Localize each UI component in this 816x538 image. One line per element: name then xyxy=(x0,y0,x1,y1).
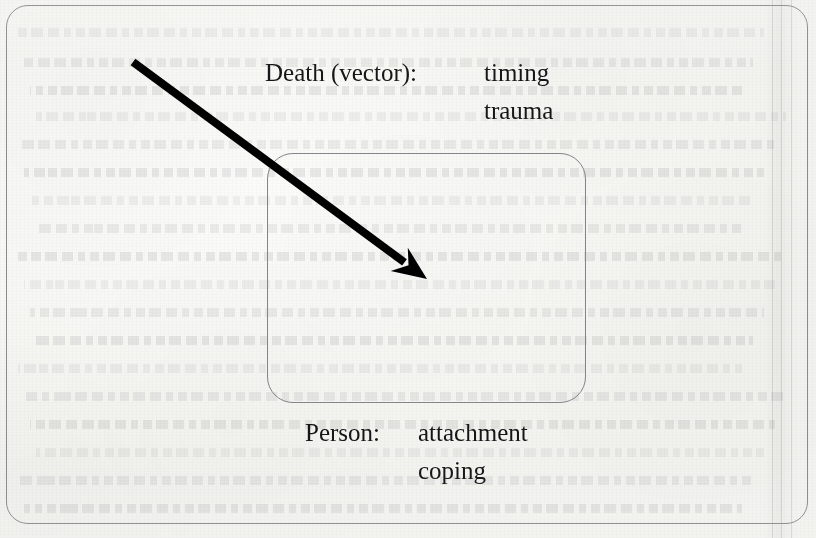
death-label-values: timing trauma xyxy=(484,54,553,130)
scanned-page: Death (vector): timing trauma Person: at… xyxy=(0,0,816,538)
death-value-timing: timing xyxy=(484,54,553,92)
death-vector-label: Death (vector): timing trauma xyxy=(265,54,553,130)
person-value-coping: coping xyxy=(418,452,528,490)
death-label-key: Death (vector): xyxy=(265,54,484,92)
person-box xyxy=(267,153,586,403)
death-value-trauma: trauma xyxy=(484,92,553,130)
person-label-key: Person: xyxy=(305,414,418,452)
person-label-values: attachment coping xyxy=(418,414,528,490)
person-value-attachment: attachment xyxy=(418,414,528,452)
person-label: Person: attachment coping xyxy=(305,414,528,490)
